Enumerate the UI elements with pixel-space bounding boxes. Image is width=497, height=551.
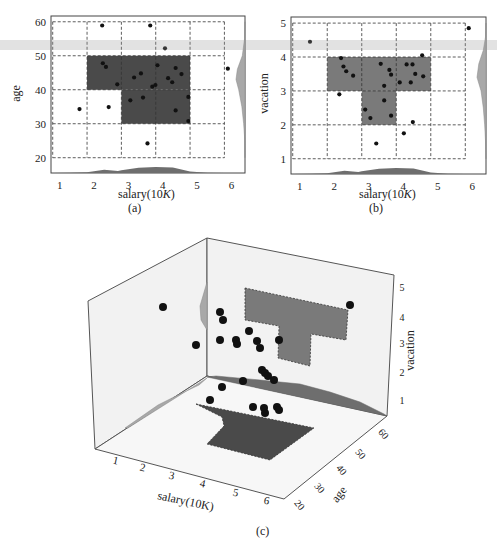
data-point-3d bbox=[275, 406, 283, 414]
data-point bbox=[339, 56, 343, 60]
highlight-region bbox=[362, 91, 397, 125]
data-point bbox=[174, 66, 178, 70]
panel-b-caption: (b) bbox=[369, 201, 383, 216]
data-point-3d bbox=[245, 327, 253, 335]
y-tick-label: 40 bbox=[35, 84, 47, 96]
panel-a-caption: (a) bbox=[128, 201, 141, 216]
data-point bbox=[226, 67, 230, 71]
data-point-3d bbox=[216, 308, 224, 316]
panel-a-xlabel: salary(10K) bbox=[118, 187, 175, 202]
data-point bbox=[382, 84, 386, 88]
panel-c-zlabel: vacation bbox=[403, 330, 418, 371]
salary-tick-label: 4 bbox=[199, 477, 207, 490]
panel-c-caption: (c) bbox=[256, 524, 269, 539]
data-point bbox=[170, 80, 174, 84]
y-tick-label: 60 bbox=[35, 16, 47, 28]
x-tick-label: 2 bbox=[331, 180, 337, 192]
salary-tick-label: 3 bbox=[168, 469, 176, 482]
data-point bbox=[410, 62, 414, 66]
data-point bbox=[402, 131, 406, 135]
data-point bbox=[174, 108, 178, 112]
y-tick-label: 3 bbox=[281, 85, 287, 97]
data-point-3d bbox=[192, 341, 200, 349]
data-point bbox=[101, 61, 105, 65]
data-point-3d bbox=[218, 383, 226, 391]
data-point bbox=[145, 141, 149, 145]
data-point bbox=[379, 62, 383, 66]
data-point-3d bbox=[346, 301, 354, 309]
data-point bbox=[308, 40, 312, 44]
data-point-3d bbox=[219, 316, 227, 324]
salary-tick-label: 5 bbox=[232, 486, 240, 499]
data-point-3d bbox=[206, 396, 214, 404]
highlight-region bbox=[87, 56, 190, 90]
data-point bbox=[179, 72, 183, 76]
panel-b-ylabel: vacation bbox=[257, 73, 272, 114]
data-point bbox=[139, 71, 143, 75]
age-tick-label: 60 bbox=[376, 426, 391, 441]
data-point bbox=[148, 23, 152, 27]
data-point bbox=[363, 107, 367, 111]
data-point bbox=[374, 141, 378, 145]
data-point-3d bbox=[253, 337, 261, 345]
data-point-3d bbox=[261, 409, 269, 417]
data-point-3d bbox=[249, 403, 257, 411]
x-tick-label: 2 bbox=[91, 179, 97, 191]
data-point bbox=[155, 63, 159, 67]
y-tick-label: 2 bbox=[281, 119, 287, 131]
vacation-tick-label: 5 bbox=[400, 282, 405, 293]
data-point bbox=[467, 26, 471, 30]
panel-c-3d-scatter: 123456203040506012345 bbox=[0, 231, 497, 551]
x-tick-label: 5 bbox=[435, 180, 441, 192]
salary-tick-label: 6 bbox=[263, 494, 271, 507]
data-point bbox=[411, 120, 415, 124]
data-point bbox=[186, 95, 190, 99]
data-point bbox=[153, 83, 157, 87]
age-tick-label: 40 bbox=[334, 462, 349, 477]
data-point bbox=[368, 116, 372, 120]
data-point-3d bbox=[239, 377, 247, 385]
data-point bbox=[389, 73, 393, 77]
data-point bbox=[107, 105, 111, 109]
salary-tick-label: 2 bbox=[139, 461, 147, 474]
y-tick-label: 50 bbox=[35, 50, 47, 62]
vacation-tick-label: 1 bbox=[400, 395, 405, 406]
data-point bbox=[413, 72, 417, 76]
figure: 1234562030405060 12345612345 12345620304… bbox=[0, 0, 497, 551]
data-point bbox=[344, 69, 348, 73]
data-point bbox=[420, 53, 424, 57]
x-tick-label: 6 bbox=[229, 179, 235, 191]
data-point-3d bbox=[233, 340, 241, 348]
data-point bbox=[77, 107, 81, 111]
panel-a-ylabel: age bbox=[9, 85, 24, 102]
y-tick-label: 30 bbox=[35, 118, 47, 130]
y-tick-label: 4 bbox=[281, 51, 287, 63]
data-point bbox=[409, 80, 413, 84]
y-tick-label: 5 bbox=[281, 17, 287, 29]
age-tick-label: 30 bbox=[312, 480, 327, 495]
data-point bbox=[163, 46, 167, 50]
data-point bbox=[421, 74, 425, 78]
data-point-3d bbox=[216, 336, 224, 344]
data-point bbox=[398, 80, 402, 84]
panel-b-xlabel: salary(10K) bbox=[359, 187, 416, 202]
data-point bbox=[128, 98, 132, 102]
y-tick-label: 1 bbox=[281, 153, 287, 165]
data-point bbox=[387, 68, 391, 72]
salary-tick-label: 1 bbox=[112, 454, 120, 467]
age-tick-label: 50 bbox=[353, 446, 368, 461]
data-point bbox=[405, 62, 409, 66]
data-point bbox=[351, 74, 355, 78]
data-point bbox=[100, 23, 104, 27]
x-tick-label: 5 bbox=[194, 179, 200, 191]
data-point bbox=[186, 119, 190, 123]
data-point-3d bbox=[275, 336, 283, 344]
data-point bbox=[104, 65, 108, 69]
data-point bbox=[389, 114, 393, 118]
data-point bbox=[382, 98, 386, 102]
data-point bbox=[141, 95, 145, 99]
data-point bbox=[341, 64, 345, 68]
data-point bbox=[337, 92, 341, 96]
age-tick-label: 20 bbox=[292, 497, 307, 512]
data-point bbox=[115, 82, 119, 86]
